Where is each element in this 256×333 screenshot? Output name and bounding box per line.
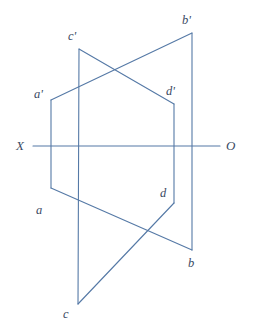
geometry-canvas (0, 0, 256, 333)
point-label-d-prime: d' (166, 85, 175, 98)
projection-figure: X O a'c'b'd'adbc (0, 0, 256, 333)
segment-layer (51, 33, 192, 304)
point-label-a-prime: a' (34, 88, 43, 101)
point-label-c: c (63, 308, 69, 321)
axis-label-x: X (16, 139, 24, 152)
point-label-d: d (160, 187, 166, 200)
segment-horizontal-ab (51, 188, 192, 250)
point-label-b: b (188, 257, 194, 270)
point-label-a: a (36, 204, 42, 217)
point-label-b-prime: b' (182, 14, 191, 27)
segment-horizontal-cd (78, 203, 174, 304)
segment-frontal-cd (79, 49, 174, 104)
axis-label-o: O (226, 139, 235, 152)
point-label-c-prime: c' (68, 30, 76, 43)
